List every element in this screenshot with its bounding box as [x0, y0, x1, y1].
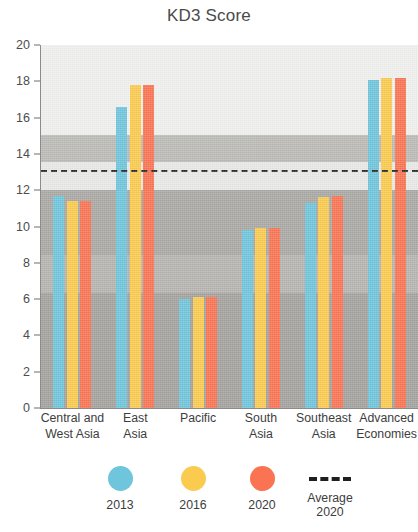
- x-axis-labels: Central and West AsiaEast AsiaPacificSou…: [41, 411, 418, 459]
- y-axis-tick-mark: [34, 299, 40, 300]
- chart-legend: 201320162020Average 2020: [0, 466, 418, 532]
- y-axis-tick-label: 20: [0, 38, 30, 52]
- legend-item[interactable]: 2020: [226, 466, 298, 512]
- x-axis-label: Advanced Economies: [349, 411, 418, 442]
- legend-label: 2020: [226, 498, 298, 512]
- y-axis-tick-label: 2: [0, 365, 30, 379]
- legend-label: 2016: [157, 498, 229, 512]
- legend-item[interactable]: 2016: [157, 466, 229, 512]
- circle-swatch-icon: [108, 466, 133, 491]
- y-axis-tick-mark: [34, 226, 40, 227]
- y-axis-tick-label: 4: [0, 328, 30, 342]
- y-axis-tick-label: 8: [0, 256, 30, 270]
- y-axis-tick-mark: [34, 408, 40, 409]
- circle-swatch-icon: [250, 466, 275, 491]
- y-axis-tick-mark: [34, 117, 40, 118]
- kd3-score-chart: KD3 Score 02468101214161820 Central and …: [0, 0, 418, 532]
- y-axis-tick-mark: [34, 262, 40, 263]
- y-axis-tick-mark: [34, 371, 40, 372]
- y-axis-tick-label: 14: [0, 147, 30, 161]
- y-axis-tick-label: 0: [0, 401, 30, 415]
- y-axis-tick-mark: [34, 81, 40, 82]
- legend-label: Average 2020: [294, 491, 366, 519]
- legend-label: 2013: [84, 498, 156, 512]
- dashed-line-icon: [309, 477, 351, 481]
- y-axis-tick-label: 12: [0, 183, 30, 197]
- legend-item[interactable]: Average 2020: [294, 466, 366, 519]
- y-axis-tick-mark: [34, 335, 40, 336]
- y-axis-tick-mark: [34, 190, 40, 191]
- y-axis-tick-label: 10: [0, 220, 30, 234]
- y-axis-tick-label: 6: [0, 292, 30, 306]
- circle-swatch-icon: [181, 466, 206, 491]
- legend-item[interactable]: 2013: [84, 466, 156, 512]
- y-axis-tick-label: 18: [0, 74, 30, 88]
- y-axis-tick-mark: [34, 45, 40, 46]
- y-axis-tick-label: 16: [0, 111, 30, 125]
- y-axis-tick-mark: [34, 153, 40, 154]
